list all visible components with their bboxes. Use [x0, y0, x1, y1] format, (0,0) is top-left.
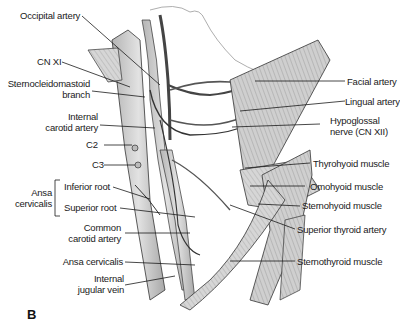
label-ansa-group-line2: cervicalis: [0, 198, 52, 209]
label-common-carotid-line1: Common: [0, 222, 121, 233]
label-inferior-root: Inferior root: [64, 181, 110, 192]
label-omohyoid-muscle: Omohyoid muscle: [310, 181, 383, 192]
label-hypoglossal-line2: nerve (CN XII): [330, 126, 388, 137]
label-occipital-artery: Occipital artery: [20, 10, 80, 21]
c3-root: [135, 162, 141, 168]
label-facial-artery: Facial artery: [347, 76, 397, 87]
label-common-carotid-line2: carotid artery: [0, 233, 121, 244]
label-c2: C2: [86, 139, 98, 150]
label-internal-carotid-line2: carotid artery: [0, 122, 98, 133]
label-internal-jugular-line2: jugular vein: [0, 284, 124, 295]
label-ansa-group-line1: Ansa: [0, 187, 52, 198]
label-internal-carotid-line1: Internal: [0, 111, 98, 122]
sternocleidomastoid-flap: [88, 48, 122, 82]
label-ansa-cervicalis: Ansa cervicalis: [0, 256, 123, 267]
label-cn-xi: CN XI: [37, 56, 61, 67]
hypoglossal-nerve: [150, 90, 240, 135]
label-sternothyroid-muscle: Sternothyroid muscle: [297, 256, 382, 267]
label-superior-root: Superior root: [64, 202, 116, 213]
panel-label: B: [27, 307, 36, 322]
label-c3: C3: [92, 159, 104, 170]
label-superior-thyroid-artery: Superior thyroid artery: [297, 224, 386, 235]
label-scm-branch-line1: Sternocleidomastoid: [0, 78, 90, 89]
label-sternohyoid-muscle: Sternohyoid muscle: [302, 200, 382, 211]
label-hypoglossal-line1: Hypoglossal: [330, 115, 380, 126]
label-lingual-artery: Lingual artery: [345, 96, 400, 107]
label-thyrohyoid-muscle: Thyrohyoid muscle: [313, 158, 389, 169]
label-internal-jugular-line1: Internal: [0, 273, 124, 284]
c2-root: [132, 145, 138, 151]
label-scm-branch-line2: branch: [0, 89, 90, 100]
